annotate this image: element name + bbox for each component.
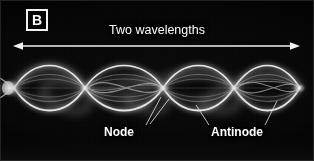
antinode-leader-line-right (265, 101, 277, 125)
two-wavelengths-caption: Two wavelengths (0, 24, 314, 37)
two-wavelengths-arrow (13, 42, 300, 50)
antinode-label: Antinode (211, 126, 263, 138)
node-label: Node (104, 126, 134, 138)
standing-wave-figure: B Two wavelengths Node Antinode (0, 0, 314, 161)
